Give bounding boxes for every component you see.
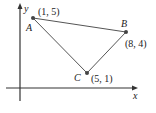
point-b-label: B [121, 18, 127, 29]
point-a-coord-label: (1, 5) [38, 6, 60, 18]
triangle-abc [33, 18, 126, 73]
x-axis-label: x [132, 90, 138, 101]
diagram-canvas: y x (1, 5) A B (8, 4) C (5, 1) [0, 0, 156, 113]
point-c [85, 71, 89, 75]
point-c-coord-label: (5, 1) [91, 73, 113, 85]
point-b [124, 30, 128, 34]
point-b-coord-label: (8, 4) [125, 38, 147, 50]
point-a-label: A [25, 22, 33, 33]
point-c-label: C [74, 72, 81, 83]
coordinate-plane: y x (1, 5) A B (8, 4) C (5, 1) [0, 0, 156, 113]
y-axis-label: y [23, 3, 29, 14]
point-a [31, 16, 35, 20]
y-axis-arrow-icon [18, 3, 23, 9]
